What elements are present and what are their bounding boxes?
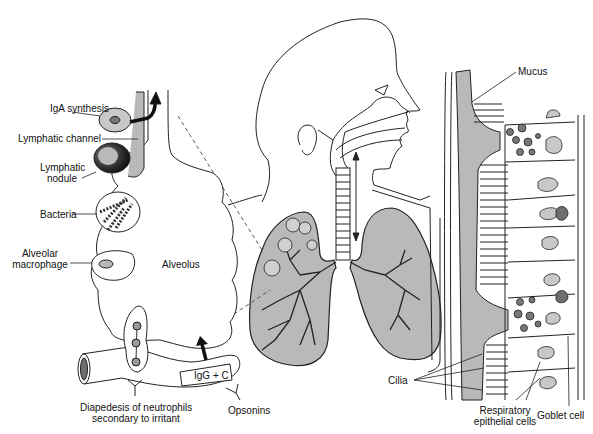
label-lymphatic-nodule-line2: nodule <box>40 173 84 184</box>
bacteria-cluster <box>96 192 140 232</box>
label-respiratory-epithelial-cells: Respiratory epithelial cells <box>470 405 540 427</box>
label-respiratory-epithelial-line2: epithelial cells <box>470 416 540 427</box>
alveolar-macrophage <box>92 251 135 281</box>
epithelial-cells <box>505 122 575 400</box>
label-diapedesis-line2: secondary to irritant <box>80 413 192 424</box>
label-diapedesis: Diapedesis of neutrophils secondary to i… <box>80 402 192 424</box>
left-lung <box>250 212 336 366</box>
dark-nuclei <box>556 207 568 303</box>
diagram-illustration <box>0 0 593 434</box>
label-lymphatic-nodule: Lymphatic nodule <box>40 162 84 184</box>
label-alveolus: Alveolus <box>162 259 200 270</box>
label-goblet-cell: Goblet cell <box>537 410 584 421</box>
label-iga-synthesis: IgA synthesis <box>50 103 109 114</box>
label-lymphatic-nodule-line1: Lymphatic <box>40 162 84 173</box>
blood-vessel <box>78 348 240 387</box>
label-alveolar-macrophage-line2: macrophage <box>12 259 68 270</box>
label-lymphatic-channel: Lymphatic channel <box>18 133 101 144</box>
label-cilia: Cilia <box>388 375 407 386</box>
label-opsonins: Opsonins <box>228 405 270 416</box>
label-mucus: Mucus <box>518 66 547 77</box>
label-alveolar-macrophage: Alveolar macrophage <box>12 248 68 270</box>
label-alveolar-macrophage-line1: Alveolar <box>12 248 68 259</box>
right-lung <box>350 208 441 360</box>
label-bacteria: Bacteria <box>40 209 77 220</box>
mucociliary-arrow <box>353 152 359 241</box>
label-igg-c: IgG + C <box>194 370 229 381</box>
respiratory-defense-diagram: IgA synthesis Lymphatic channel Lymphati… <box>0 0 593 434</box>
trachea <box>336 168 350 260</box>
label-diapedesis-line1: Diapedesis of neutrophils <box>80 402 192 413</box>
cell-nuclei <box>538 110 562 389</box>
label-respiratory-epithelial-line1: Respiratory <box>470 405 540 416</box>
